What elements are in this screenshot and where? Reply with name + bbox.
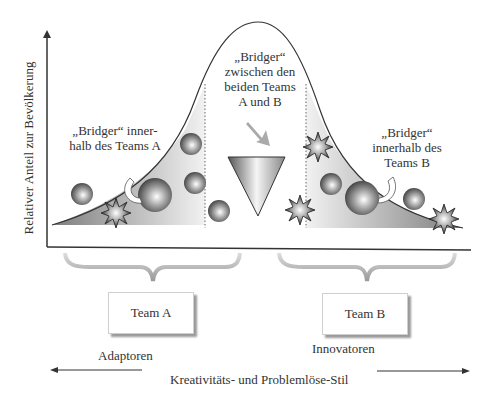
team-a-box: Team A: [108, 292, 194, 334]
annotation-bridger-center: „Bridger“ zwischen den beiden Teams A un…: [210, 49, 310, 109]
annotation-bridger-b: „Bridger“ innerhalb des Teams B: [362, 125, 452, 170]
bracket-icon: [65, 253, 455, 281]
x-axis-label: Kreativitäts- und Problemlöse-Stil: [170, 372, 348, 387]
funnel-icon: [228, 157, 285, 216]
style-innovatoren: Innovatoren: [312, 341, 375, 356]
style-adaptoren: Adaptoren: [98, 348, 153, 363]
y-axis-label: Relativer Anteil zur Bevölkerung: [21, 53, 37, 243]
annotation-bridger-a: „Bridger“ inner- halb des Teams A: [60, 123, 170, 153]
team-a-area: [52, 85, 205, 225]
team-b-box: Team B: [322, 293, 408, 335]
